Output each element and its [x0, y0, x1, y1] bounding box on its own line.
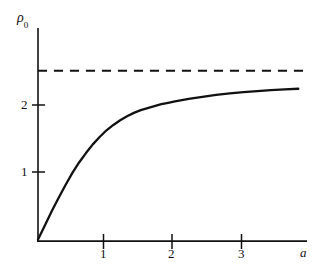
chart-figure: ρ0 a 1 2 1 2 3 — [0, 0, 335, 275]
x-axis-label: a — [300, 246, 307, 259]
data-curve — [38, 89, 298, 240]
x-tick-label-1: 1 — [100, 247, 107, 260]
y-axis-label-subscript: 0 — [24, 20, 29, 30]
x-tick-label-2: 2 — [168, 247, 175, 260]
x-tick-label-3: 3 — [238, 247, 245, 260]
y-tick-label-1: 1 — [21, 165, 28, 178]
plot-area — [0, 0, 335, 275]
y-axis-label-base: ρ — [17, 10, 24, 25]
y-tick-label-2: 2 — [21, 98, 28, 111]
y-axis-label: ρ0 — [17, 11, 28, 28]
